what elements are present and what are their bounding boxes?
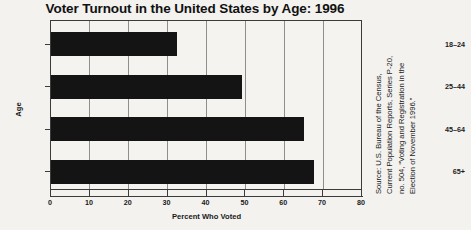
y-axis-title: Age	[14, 102, 23, 116]
x-tick-mark-80	[361, 190, 362, 196]
source-note-line-3: no. 504, “Voting and Registration in the	[396, 18, 407, 194]
chart-figure: Voter Turnout in the United States by Ag…	[0, 0, 471, 230]
x-tick-mark-20	[128, 190, 129, 196]
x-tick-label-50: 50	[240, 198, 248, 207]
x-tick-label-80: 80	[357, 198, 365, 207]
x-tick-mark-60	[283, 190, 284, 196]
x-tick-label-20: 20	[124, 198, 132, 207]
bar-25-44	[51, 75, 242, 99]
x-tick-label-60: 60	[279, 198, 287, 207]
x-tick-mark-30	[167, 190, 168, 196]
source-note-line-4: Election of November 1996.”	[407, 18, 418, 194]
x-tick-label-0: 0	[48, 198, 52, 207]
source-note-line-1: Source: U.S. Bureau of the Census,	[373, 18, 384, 194]
x-tick-label-70: 70	[318, 198, 326, 207]
x-axis-title: Percent Who Voted	[50, 212, 363, 221]
bar-65-plus	[51, 160, 314, 184]
x-tick-mark-70	[322, 190, 323, 196]
x-tick-mark-50	[244, 190, 245, 196]
source-note-line-2: Current Population Reports, Series P-20,	[384, 18, 395, 194]
source-note: Source: U.S. Bureau of the Census, Curre…	[373, 18, 459, 194]
x-tick-mark-40	[206, 190, 207, 196]
plot-area	[50, 20, 362, 190]
x-tick-label-30: 30	[163, 198, 171, 207]
chart-title: Voter Turnout in the United States by Ag…	[0, 1, 390, 16]
bar-18-24	[51, 32, 177, 56]
x-tick-mark-0	[50, 190, 51, 196]
x-tick-mark-10	[89, 190, 90, 196]
x-tick-label-40: 40	[202, 198, 210, 207]
x-tick-label-10: 10	[85, 198, 93, 207]
bar-series	[51, 21, 361, 189]
bar-45-64	[51, 117, 304, 141]
